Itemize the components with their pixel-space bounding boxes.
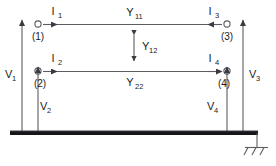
label-admittance-Y22: Y 22: [126, 76, 143, 91]
label-Y11-base: Y: [126, 6, 134, 18]
label-I2-sub: 2: [58, 58, 62, 67]
label-current-I2: I 2: [51, 52, 62, 67]
node-label-4: (4): [218, 78, 230, 89]
label-admittance-Y11: Y 11: [126, 6, 142, 21]
label-Y12-sub: 12: [149, 46, 157, 55]
node-terminal-1: [35, 21, 41, 27]
label-admittance-Y12: Y 12: [142, 40, 157, 55]
node-label-1: (1): [32, 31, 44, 42]
label-I4-sub: 4: [215, 58, 219, 67]
node-label-3: (3): [221, 31, 233, 42]
label-current-I3: I 3: [208, 5, 219, 20]
label-current-I1: I 1: [51, 5, 62, 20]
label-I3-sub: 3: [215, 11, 219, 20]
label-I3-base: I: [208, 5, 211, 17]
ground-icon: [244, 133, 268, 155]
label-I2-base: I: [51, 52, 54, 64]
label-Y22-base: Y: [126, 76, 134, 88]
label-voltage-V3: V 3: [249, 68, 260, 83]
label-current-I4: I 4: [208, 52, 219, 67]
diagram-canvas: I 1 I 2 I 3 I 4 (1) (2) (3) (4) Y 11: [0, 0, 276, 166]
label-Y22-sub: 22: [135, 82, 143, 91]
label-I1-base: I: [51, 5, 54, 17]
label-voltage-V1: V 1: [5, 68, 16, 83]
label-V4-sub: 4: [214, 106, 218, 115]
label-V1-sub: 1: [12, 74, 16, 83]
label-V3-sub: 3: [256, 74, 260, 83]
label-Y11-sub: 11: [135, 12, 143, 21]
label-voltage-V2: V 2: [40, 100, 51, 115]
label-I4-base: I: [208, 52, 211, 64]
node-terminal-3: [224, 21, 230, 27]
label-voltage-V4: V 4: [207, 100, 218, 115]
label-I1-sub: 1: [58, 11, 62, 20]
node-label-2: (2): [34, 78, 46, 89]
label-V2-sub: 2: [47, 106, 51, 115]
circuit-diagram: I 1 I 2 I 3 I 4 (1) (2) (3) (4) Y 11: [0, 0, 276, 166]
